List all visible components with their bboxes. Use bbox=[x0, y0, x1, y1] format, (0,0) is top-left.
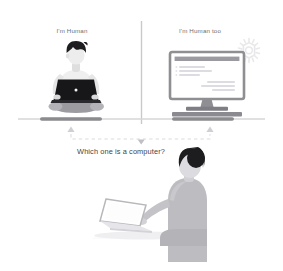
illustration-canvas: I'm Human I'm Human too Which one is a c… bbox=[0, 0, 283, 271]
left-panel-human-figure bbox=[49, 41, 105, 113]
monitor-neck bbox=[201, 99, 214, 107]
right-panel-monitor bbox=[170, 39, 259, 117]
comparison-illustration bbox=[0, 0, 283, 271]
screen-text-line bbox=[212, 89, 235, 91]
arrow-down-center-icon bbox=[138, 140, 145, 145]
dashed-connector bbox=[71, 134, 210, 139]
screen-text-line bbox=[207, 81, 235, 83]
left-panel-label: I'm Human bbox=[32, 27, 112, 34]
laptop-logo bbox=[75, 89, 78, 92]
figure-foot-right bbox=[90, 102, 104, 110]
right-panel-label: I'm Human too bbox=[160, 27, 240, 34]
screen-text-line bbox=[201, 85, 235, 87]
figure-hand-left bbox=[53, 94, 60, 99]
shadow-bar-left bbox=[40, 117, 102, 121]
monitor-titlebar bbox=[175, 57, 240, 61]
question-text: Which one is a computer? bbox=[31, 147, 211, 156]
shadow-bar-right bbox=[172, 117, 234, 121]
person-lap bbox=[160, 229, 207, 246]
figure-hand-right bbox=[91, 94, 98, 99]
arrow-up-right-icon bbox=[206, 127, 213, 133]
screen-text-line bbox=[179, 70, 212, 72]
screen-text-line bbox=[179, 66, 205, 68]
figure-ear bbox=[66, 54, 70, 59]
figure-foot-left bbox=[49, 102, 63, 110]
person-seat bbox=[168, 246, 207, 262]
bottom-scene-person-at-laptop bbox=[92, 147, 207, 262]
laptop-base bbox=[51, 100, 102, 103]
monitor-stand-plate bbox=[172, 112, 242, 116]
arrow-up-left-icon bbox=[67, 127, 74, 133]
monitor-base-bar bbox=[186, 107, 228, 111]
screen-rail-marks bbox=[176, 66, 178, 76]
screen-text-line bbox=[179, 74, 200, 76]
